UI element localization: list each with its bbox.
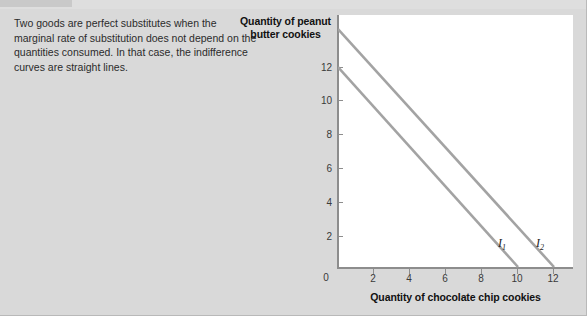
origin-label: 0 xyxy=(314,272,338,283)
curve-I1 xyxy=(338,67,518,267)
y-tick-label-6: 6 xyxy=(310,163,332,174)
x-tick-label-4: 4 xyxy=(397,273,421,284)
x-tick-label-12: 12 xyxy=(541,273,565,284)
caption-text: Two goods are perfect substitutes when t… xyxy=(14,16,259,74)
top-band-accent xyxy=(0,0,72,7)
curve-label-I2: I2 xyxy=(536,236,544,252)
figure-perfect-substitutes: Two goods are perfect substitutes when t… xyxy=(0,0,587,316)
top-band xyxy=(0,0,587,9)
curve-label-I1-sub: 1 xyxy=(502,243,506,252)
x-tick-label-10: 10 xyxy=(505,273,529,284)
curve-label-I2-sub: 2 xyxy=(540,243,544,252)
x-axis-title: Quantity of chocolate chip cookies xyxy=(338,291,573,303)
y-tick-label-10: 10 xyxy=(310,95,332,106)
x-tick-label-2: 2 xyxy=(361,273,385,284)
x-tick-label-8: 8 xyxy=(469,273,493,284)
figure-caption: Two goods are perfect substitutes when t… xyxy=(14,16,259,74)
indifference-curves xyxy=(338,15,573,268)
y-tick-label-12: 12 xyxy=(310,62,332,73)
y-tick-label-4: 4 xyxy=(310,197,332,208)
y-axis-title: Quantity of peanut butter cookies xyxy=(238,15,333,40)
y-tick-label-2: 2 xyxy=(310,231,332,242)
chart-area: Quantity of peanut butter cookies 12 10 … xyxy=(262,10,577,310)
curve-I2 xyxy=(338,29,554,267)
x-tick-label-6: 6 xyxy=(433,273,457,284)
y-tick-label-8: 8 xyxy=(310,129,332,140)
curve-label-I1: I1 xyxy=(498,236,506,252)
